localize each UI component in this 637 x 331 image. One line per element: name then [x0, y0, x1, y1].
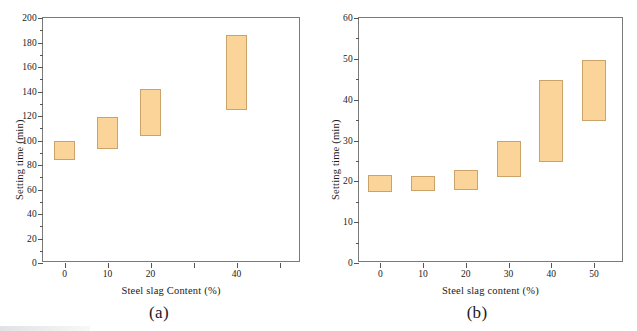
y-axis-minor-tick	[356, 243, 359, 244]
y-axis-tick	[354, 59, 359, 60]
y-axis-minor-tick	[356, 202, 359, 203]
y-axis-tick	[354, 18, 359, 19]
x-axis-tick	[65, 263, 66, 268]
x-axis-tick-label: 0	[62, 269, 67, 279]
y-axis-minor-tick	[40, 128, 43, 129]
y-axis-minor-tick	[40, 226, 43, 227]
x-axis-tick	[237, 263, 238, 268]
y-axis-tick	[38, 263, 43, 264]
x-axis-tick	[151, 263, 152, 268]
y-axis-tick-label: 40	[27, 209, 37, 219]
y-axis-tick-label: 60	[27, 185, 37, 195]
x-axis-tick-label: 10	[418, 269, 428, 279]
x-axis-tick	[108, 263, 109, 268]
y-axis-tick	[354, 181, 359, 182]
range-bar	[140, 89, 161, 136]
panel-a: 0204060801001201401601802000102040 Setti…	[0, 0, 318, 331]
y-axis-tick	[354, 222, 359, 223]
y-axis-minor-tick	[40, 153, 43, 154]
x-axis-tick	[280, 263, 281, 268]
y-axis-minor-tick	[356, 161, 359, 162]
x-axis-tick-label: 30	[504, 269, 514, 279]
y-axis-tick-label: 0	[348, 258, 353, 268]
y-axis-tick	[38, 92, 43, 93]
plot-frame-b: 010203040506001020304050	[358, 17, 623, 262]
y-axis-minor-tick	[40, 79, 43, 80]
y-axis-tick-label: 80	[27, 160, 37, 170]
y-axis-title-b: Setting time (min)	[330, 119, 341, 200]
y-axis-minor-tick	[40, 251, 43, 252]
x-axis-tick-label: 20	[146, 269, 156, 279]
y-axis-tick	[354, 100, 359, 101]
y-axis-tick	[38, 165, 43, 166]
range-bar	[497, 141, 521, 178]
plot-frame-a: 0204060801001201401601802000102040	[42, 17, 300, 262]
range-bar	[582, 60, 606, 121]
x-axis-tick-label: 10	[103, 269, 113, 279]
y-axis-tick-label: 60	[343, 13, 353, 23]
y-axis-minor-tick	[40, 177, 43, 178]
y-axis-tick-label: 140	[22, 87, 37, 97]
range-bar	[539, 80, 563, 162]
y-axis-minor-tick	[356, 120, 359, 121]
y-axis-tick-label: 10	[343, 217, 353, 227]
y-axis-tick	[38, 18, 43, 19]
y-axis-tick	[38, 43, 43, 44]
y-axis-tick	[354, 263, 359, 264]
y-axis-tick-label: 30	[343, 136, 353, 146]
y-axis-minor-tick	[40, 55, 43, 56]
two-panel-figure: 0204060801001201401601802000102040 Setti…	[0, 0, 637, 331]
plot-area-b: 010203040506001020304050	[359, 18, 622, 261]
y-axis-tick-label: 20	[343, 176, 353, 186]
y-axis-tick-label: 200	[22, 13, 37, 23]
y-axis-minor-tick	[40, 202, 43, 203]
y-axis-minor-tick	[40, 104, 43, 105]
panel-b: 010203040506001020304050 Setting time (m…	[318, 0, 636, 331]
y-axis-tick	[38, 214, 43, 215]
panel-caption-a: (a)	[0, 303, 318, 323]
x-axis-tick-label: 40	[232, 269, 242, 279]
y-axis-tick-label: 20	[27, 234, 37, 244]
y-axis-minor-tick	[40, 30, 43, 31]
x-axis-tick	[466, 263, 467, 268]
range-bar	[454, 170, 478, 190]
panel-caption-b: (b)	[318, 303, 636, 323]
x-axis-tick-label: 40	[547, 269, 557, 279]
x-axis-tick-label: 0	[378, 269, 383, 279]
range-bar	[226, 35, 247, 110]
x-axis-tick	[594, 263, 595, 268]
y-axis-minor-tick	[356, 38, 359, 39]
x-axis-tick	[551, 263, 552, 268]
x-axis-tick	[423, 263, 424, 268]
y-axis-tick	[38, 190, 43, 191]
x-axis-tick-label: 20	[461, 269, 471, 279]
range-bar	[411, 176, 435, 191]
plot-area-a: 0204060801001201401601802000102040	[43, 18, 299, 261]
y-axis-tick	[38, 67, 43, 68]
x-axis-tick	[509, 263, 510, 268]
range-bar	[97, 117, 118, 149]
y-axis-tick	[354, 141, 359, 142]
y-axis-tick-label: 40	[343, 95, 353, 105]
y-axis-tick	[38, 116, 43, 117]
x-axis-tick	[194, 263, 195, 268]
scan-edge-artifact	[0, 326, 90, 331]
y-axis-tick-label: 180	[22, 38, 37, 48]
y-axis-tick-label: 0	[32, 258, 37, 268]
x-axis-title-a: Steel slag Content (%)	[42, 285, 300, 296]
y-axis-title-a: Setting time (min)	[14, 119, 25, 200]
x-axis-title-b: Steel slag content (%)	[358, 285, 623, 296]
y-axis-minor-tick	[356, 79, 359, 80]
y-axis-tick-label: 160	[22, 62, 37, 72]
y-axis-tick	[38, 141, 43, 142]
range-bar	[368, 175, 392, 192]
y-axis-tick	[38, 239, 43, 240]
y-axis-tick-label: 50	[343, 54, 353, 64]
range-bar	[54, 141, 75, 161]
x-axis-tick	[380, 263, 381, 268]
x-axis-tick-label: 50	[589, 269, 599, 279]
